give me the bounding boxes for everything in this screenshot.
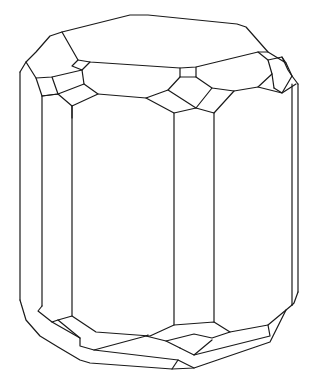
right-top-facets (258, 52, 296, 93)
center-top-facets (98, 67, 258, 113)
top-face (62, 32, 268, 68)
bottom-facets (20, 292, 298, 369)
prism-edges (42, 84, 298, 325)
left-top-facets (20, 60, 98, 300)
top-outline (20, 15, 298, 84)
crystal-drawing (0, 0, 318, 370)
